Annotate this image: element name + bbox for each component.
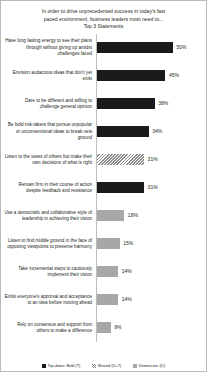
- bar-category-label: Rely on consensus and support from other…: [4, 322, 96, 334]
- bar-row: Have long lasting energy to see their pl…: [4, 34, 202, 62]
- bar-topdown[interactable]: [97, 98, 155, 109]
- bar-democratic[interactable]: [97, 294, 118, 305]
- bar-democratic[interactable]: [97, 238, 120, 249]
- chart-title-line-3: Top 3 Statements: [13, 23, 194, 31]
- bar-track: 14%: [96, 258, 202, 286]
- bar-topdown[interactable]: [97, 42, 173, 53]
- bar-value-label: 15%: [123, 241, 133, 246]
- legend-swatch-icon: [133, 364, 137, 368]
- legend-swatch-icon: [42, 364, 46, 368]
- bar-row: Dare to be different and willing to chal…: [4, 90, 202, 118]
- bar-track: 50%: [96, 34, 202, 62]
- bar-category-label: Enlist everyone's approval and acceptanc…: [4, 294, 96, 306]
- bar-topdown[interactable]: [97, 126, 149, 137]
- bar-category-label: Use a democratic and collaborative style…: [4, 210, 96, 222]
- bar-row: Remain firm in their course of action de…: [4, 174, 202, 202]
- legend-label: Democratic (D): [139, 364, 165, 368]
- bar-track: 45%: [96, 62, 202, 90]
- bar-value-label: 31%: [148, 157, 158, 162]
- bar-track: 14%: [96, 286, 202, 314]
- bar-value-label: 31%: [148, 185, 158, 190]
- chart-title-line-2: paced environment, business leaders most…: [13, 16, 194, 24]
- bar-value-label: 18%: [128, 213, 138, 218]
- bar-value-label: 50%: [177, 45, 187, 50]
- bar-track: 31%: [96, 174, 202, 202]
- legend-item-shared[interactable]: Shared (D+T): [92, 364, 121, 368]
- bar-category-label: Dare to be different and willing to chal…: [4, 98, 96, 110]
- plot-area: Have long lasting energy to see their pl…: [1, 34, 206, 342]
- bar-topdown[interactable]: [97, 182, 144, 193]
- bar-category-label: Be bold risk-takers that pursue unpopula…: [4, 122, 96, 141]
- bar-topdown[interactable]: [97, 70, 165, 81]
- bar-category-label: Listen to the views of others but make t…: [4, 154, 96, 166]
- bar-track: 15%: [96, 230, 202, 258]
- bar-category-label: Envision audacious ideas that don't yet …: [4, 70, 96, 82]
- bar-track: 9%: [96, 314, 202, 342]
- bar-row: Enlist everyone's approval and acceptanc…: [4, 286, 202, 314]
- legend-swatch-icon: [92, 364, 96, 368]
- bar-democratic[interactable]: [97, 322, 111, 333]
- bar-row: Listen to the views of others but make t…: [4, 146, 202, 174]
- legend-label: Shared (D+T): [98, 364, 122, 368]
- bar-track: 31%: [96, 146, 202, 174]
- bar-row: Listen to find middle ground in the face…: [4, 230, 202, 258]
- bar-value-label: 45%: [169, 73, 179, 78]
- bar-value-label: 14%: [122, 269, 132, 274]
- bar-category-label: Have long lasting energy to see their pl…: [4, 38, 96, 57]
- bar-value-label: 34%: [152, 129, 162, 134]
- bar-value-label: 9%: [114, 325, 121, 330]
- bar-value-label: 14%: [122, 297, 132, 302]
- bar-democratic[interactable]: [97, 210, 124, 221]
- bar-track: 18%: [96, 202, 202, 230]
- bar-shared[interactable]: [97, 154, 144, 165]
- chart-container: In order to drive unprecedented success …: [0, 0, 207, 372]
- bar-category-label: Take incremental steps to cautiously imp…: [4, 266, 96, 278]
- bar-value-label: 38%: [158, 101, 168, 106]
- legend-item-democratic[interactable]: Democratic (D): [133, 364, 165, 368]
- legend-item-topdown[interactable]: Top-down: Bold (T): [42, 364, 80, 368]
- chart-legend: Top-down: Bold (T)Shared (D+T)Democratic…: [1, 364, 206, 368]
- bar-row: Use a democratic and collaborative style…: [4, 202, 202, 230]
- bar-category-label: Listen to find middle ground in the face…: [4, 238, 96, 250]
- bar-row: Rely on consensus and support from other…: [4, 314, 202, 342]
- bar-democratic[interactable]: [97, 266, 118, 277]
- bar-category-label: Remain firm in their course of action de…: [4, 182, 96, 194]
- bar-row: Be bold risk-takers that pursue unpopula…: [4, 118, 202, 146]
- chart-title-line-1: In order to drive unprecedented success …: [13, 8, 194, 16]
- bar-track: 34%: [96, 118, 202, 146]
- bar-row: Envision audacious ideas that don't yet …: [4, 62, 202, 90]
- bar-row: Take incremental steps to cautiously imp…: [4, 258, 202, 286]
- chart-title: In order to drive unprecedented success …: [1, 1, 206, 31]
- bar-track: 38%: [96, 90, 202, 118]
- legend-label: Top-down: Bold (T): [47, 364, 80, 368]
